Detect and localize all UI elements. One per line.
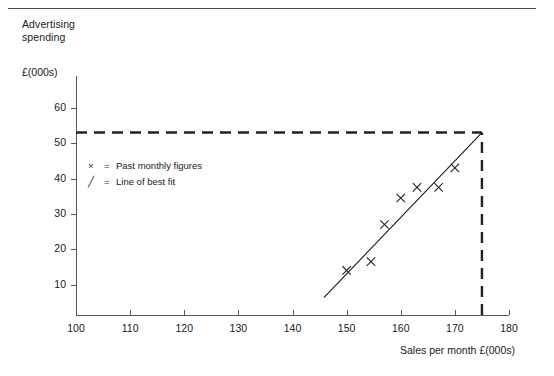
x-axis-title: Sales per month £(000s) bbox=[400, 344, 515, 356]
x-tick bbox=[184, 310, 185, 315]
x-tick-label: 150 bbox=[332, 322, 362, 334]
x-tick bbox=[238, 310, 239, 315]
y-axis-line bbox=[76, 76, 77, 315]
legend-item-points: × = Past monthly figures bbox=[88, 158, 202, 174]
figure-canvas: Advertising spending £(000s) 10203040506… bbox=[0, 0, 554, 376]
cross-marker-icon: × bbox=[88, 158, 104, 174]
x-tick bbox=[509, 310, 510, 315]
x-tick-label: 120 bbox=[169, 322, 199, 334]
x-tick bbox=[455, 310, 456, 315]
y-tick-label: 40 bbox=[40, 172, 66, 184]
legend: × = Past monthly figures ╱ = Line of bes… bbox=[88, 158, 202, 190]
legend-item-line: ╱ = Line of best fit bbox=[88, 174, 202, 190]
legend-equals-0: = bbox=[104, 158, 116, 174]
x-axis-line bbox=[76, 315, 509, 316]
y-tick-label: 50 bbox=[40, 136, 66, 148]
y-tick bbox=[71, 143, 76, 144]
plot-area: 102030405060 100110120130140150160170180 bbox=[0, 0, 554, 376]
x-tick-label: 140 bbox=[278, 322, 308, 334]
y-tick bbox=[71, 179, 76, 180]
legend-label-line: Line of best fit bbox=[116, 174, 175, 190]
y-tick-label: 60 bbox=[40, 101, 66, 113]
x-tick-label: 130 bbox=[223, 322, 253, 334]
x-tick-label: 110 bbox=[115, 322, 145, 334]
x-tick bbox=[401, 310, 402, 315]
x-tick-label: 100 bbox=[61, 322, 91, 334]
y-tick bbox=[71, 108, 76, 109]
y-tick bbox=[71, 249, 76, 250]
x-tick bbox=[76, 310, 77, 315]
x-tick bbox=[130, 310, 131, 315]
legend-label-points: Past monthly figures bbox=[116, 158, 202, 174]
y-tick-label: 30 bbox=[40, 207, 66, 219]
y-tick-label: 20 bbox=[40, 242, 66, 254]
y-tick bbox=[71, 285, 76, 286]
x-tick-label: 180 bbox=[494, 322, 524, 334]
x-tick-label: 170 bbox=[440, 322, 470, 334]
y-tick-label: 10 bbox=[40, 278, 66, 290]
x-tick bbox=[347, 310, 348, 315]
slash-line-icon: ╱ bbox=[88, 174, 104, 190]
x-tick bbox=[293, 310, 294, 315]
legend-equals-1: = bbox=[104, 174, 116, 190]
x-tick-label: 160 bbox=[386, 322, 416, 334]
y-tick bbox=[71, 214, 76, 215]
